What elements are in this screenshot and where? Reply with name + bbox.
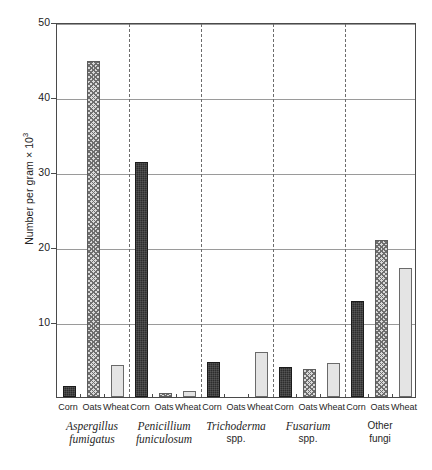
group-separator [129, 24, 130, 397]
gridline-20 [57, 249, 415, 250]
x-tick-mark [104, 394, 105, 398]
gridline-50 [57, 24, 415, 25]
group-label-0: Aspergillusfumigatus [66, 420, 118, 445]
bar-oats-group-4 [375, 240, 388, 397]
x-tick-label-oats: Oats [154, 402, 173, 412]
group-label-line1: Trichoderma [206, 420, 265, 433]
y-tick-label-10: 10 [10, 316, 50, 328]
group-label-4: Otherfungi [367, 420, 392, 445]
group-label-line2: spp. [206, 433, 265, 446]
bar-chart-figure: Number per gram × 103 1020304050 CornOat… [0, 0, 432, 470]
bar-corn-group-1 [135, 162, 148, 397]
x-tick-label-oats: Oats [370, 402, 389, 412]
gridline-30 [57, 174, 415, 175]
group-label-1: Penicilliumfuniculosum [136, 420, 192, 445]
group-separator [201, 24, 202, 397]
bar-corn-group-0 [63, 386, 76, 397]
bar-corn-group-2 [207, 362, 220, 397]
y-tick-label-40: 40 [10, 91, 50, 103]
bar-wheat-group-2 [255, 352, 268, 397]
group-label-line2: fumigatus [66, 433, 118, 446]
group-label-3: Fusariumspp. [286, 420, 331, 445]
gridline-40 [57, 99, 415, 100]
group-label-line1: Aspergillus [66, 420, 118, 433]
plot-area [56, 23, 416, 398]
group-separator [273, 24, 274, 397]
bar-oats-group-3 [303, 369, 316, 397]
y-axis-title-text: Number per gram × 10 [23, 137, 35, 245]
bar-wheat-group-3 [327, 363, 340, 398]
group-label-line2: spp. [286, 433, 331, 446]
bar-oats-group-0 [87, 61, 100, 397]
x-tick-label-wheat: Wheat [175, 402, 201, 412]
y-tick-label-20: 20 [10, 241, 50, 253]
x-tick-mark [248, 394, 249, 398]
group-label-2: Trichodermaspp. [206, 420, 265, 445]
group-label-line2: funiculosum [136, 433, 192, 446]
group-label-line1: Fusarium [286, 420, 331, 433]
x-tick-label-wheat: Wheat [103, 402, 129, 412]
bar-oats-group-1 [159, 393, 172, 397]
x-tick-mark [80, 394, 81, 398]
x-tick-mark [392, 394, 393, 398]
x-tick-label-corn: Corn [274, 402, 294, 412]
x-tick-label-corn: Corn [346, 402, 366, 412]
x-tick-label-wheat: Wheat [247, 402, 273, 412]
x-tick-mark [224, 394, 225, 398]
y-tick-label-30: 30 [10, 166, 50, 178]
x-tick-label-oats: Oats [226, 402, 245, 412]
group-label-line1: Other [367, 420, 392, 433]
x-tick-label-corn: Corn [130, 402, 150, 412]
x-tick-mark [152, 394, 153, 398]
x-tick-label-wheat: Wheat [319, 402, 345, 412]
x-tick-mark [296, 394, 297, 398]
x-tick-label-corn: Corn [202, 402, 222, 412]
bar-wheat-group-0 [111, 365, 124, 397]
x-tick-label-wheat: Wheat [391, 402, 417, 412]
y-tick-label-50: 50 [10, 16, 50, 28]
group-label-line1: Penicillium [136, 420, 192, 433]
bar-corn-group-3 [279, 367, 292, 397]
bar-wheat-group-4 [399, 268, 412, 397]
x-tick-mark [176, 394, 177, 398]
x-tick-label-oats: Oats [298, 402, 317, 412]
y-axis-title-exponent: 3 [21, 133, 30, 137]
x-tick-label-oats: Oats [82, 402, 101, 412]
group-label-line2: fungi [367, 433, 392, 446]
x-tick-mark [368, 394, 369, 398]
x-tick-mark [320, 394, 321, 398]
x-tick-label-corn: Corn [58, 402, 78, 412]
bar-wheat-group-1 [183, 391, 196, 397]
group-separator [345, 24, 346, 397]
bar-corn-group-4 [351, 301, 364, 397]
